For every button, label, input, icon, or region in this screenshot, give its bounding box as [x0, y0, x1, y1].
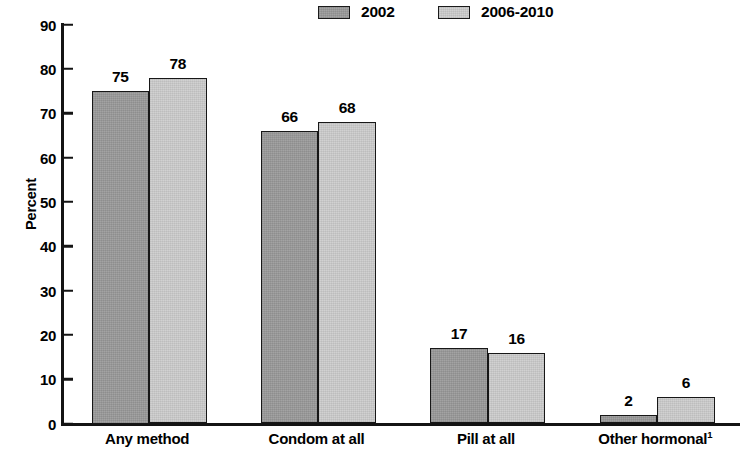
bar — [657, 397, 715, 424]
bar — [261, 131, 319, 424]
bar — [318, 122, 376, 423]
bar — [149, 78, 207, 424]
y-tick-mark — [64, 378, 73, 381]
bar-value-label: 17 — [430, 326, 488, 342]
bar-value-label: 16 — [488, 331, 546, 347]
bar-chart: 2002 2006-2010 Percent 90807060504030201… — [0, 0, 749, 456]
bar — [600, 415, 658, 424]
footnote-marker: 1 — [707, 429, 712, 440]
y-tick-mark — [64, 245, 73, 248]
x-axis-category-label: Any method — [63, 431, 232, 446]
y-tick-mark — [64, 156, 73, 159]
bar-value-label: 78 — [149, 56, 207, 72]
plot-area: 7578Any method6668Condom at all1716Pill … — [0, 0, 749, 456]
bar-value-label: 66 — [261, 109, 319, 125]
x-axis-category-label: Other hormonal1 — [571, 431, 740, 446]
bar-value-label: 2 — [600, 393, 658, 409]
y-tick-mark — [64, 334, 73, 337]
bar — [430, 348, 488, 423]
x-axis-category-label: Condom at all — [232, 431, 401, 446]
bar-value-label: 75 — [92, 69, 150, 85]
y-tick-mark — [64, 289, 73, 292]
y-tick-mark — [64, 422, 73, 425]
y-tick-mark — [64, 23, 73, 26]
x-axis-category-label: Pill at all — [401, 431, 570, 446]
y-tick-mark — [64, 112, 73, 115]
bar — [488, 353, 546, 424]
y-tick-mark — [64, 201, 73, 204]
y-tick-mark — [64, 68, 73, 71]
bar-value-label: 6 — [657, 375, 715, 391]
bar — [92, 91, 150, 424]
bar-value-label: 68 — [318, 100, 376, 116]
